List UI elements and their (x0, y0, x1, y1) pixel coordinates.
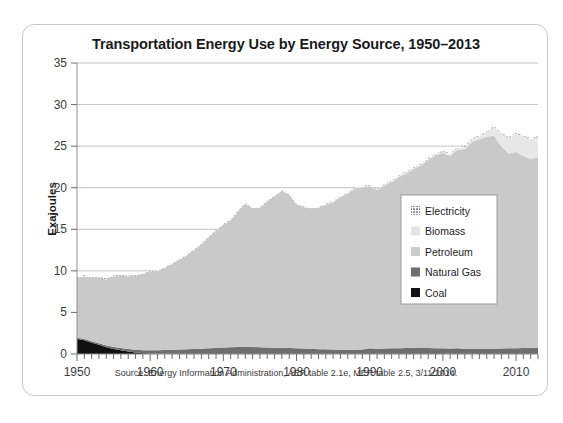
y-tick-label: 30 (54, 98, 68, 112)
source-note: Source: Energy Information Administratio… (23, 368, 549, 378)
chart-card: Transportation Energy Use by Energy Sour… (22, 24, 548, 396)
y-tick-label: 0 (60, 347, 67, 361)
x-axis-ticks (77, 354, 538, 361)
legend-label-coal: Coal (425, 287, 447, 299)
y-tick-label: 10 (54, 264, 68, 278)
legend-swatch-petroleum (411, 247, 420, 256)
legend-label-natural-gas: Natural Gas (425, 266, 481, 278)
chart-legend: ElectricityBiomassPetroleumNatural GasCo… (401, 195, 497, 304)
y-tick-label: 5 (60, 305, 67, 319)
figure-root: Transportation Energy Use by Energy Sour… (0, 0, 563, 423)
legend-swatch-electricity (411, 206, 420, 215)
y-tick-label: 25 (54, 139, 68, 153)
y-axis-tick-labels: 05101520253035 (54, 56, 77, 361)
y-tick-label: 20 (54, 181, 68, 195)
y-tick-label: 15 (54, 222, 68, 236)
legend-label-biomass: Biomass (425, 225, 465, 237)
stacked-area-chart: 05101520253035 1950196019701980199020002… (23, 25, 549, 397)
plot-area: 05101520253035 1950196019701980199020002… (23, 25, 549, 397)
legend-swatch-coal (411, 288, 420, 297)
y-tick-label: 35 (54, 56, 68, 70)
legend-label-electricity: Electricity (425, 205, 471, 217)
legend-label-petroleum: Petroleum (425, 246, 473, 258)
legend-swatch-natural-gas (411, 268, 420, 277)
legend-swatch-biomass (411, 227, 420, 236)
